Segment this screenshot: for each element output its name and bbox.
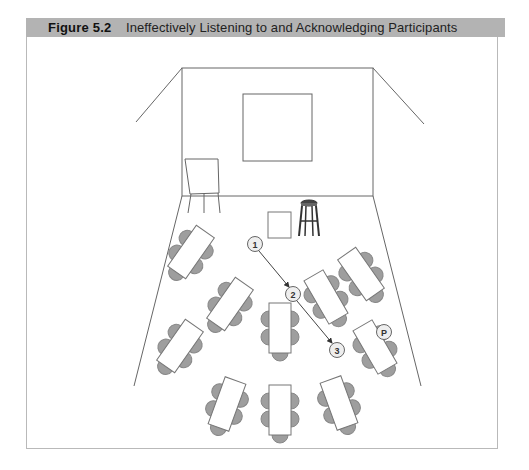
marker-3: 3 — [330, 343, 345, 358]
tables-group — [146, 221, 408, 443]
table-with-chairs — [198, 374, 254, 441]
table — [269, 303, 291, 353]
marker-2: 2 — [286, 287, 301, 302]
participant-marker-p: P — [377, 325, 392, 340]
svg-text:2: 2 — [290, 290, 295, 300]
table — [269, 385, 291, 435]
table-with-chairs — [261, 385, 299, 443]
table-with-chairs — [261, 303, 299, 361]
marker-1: 1 — [248, 237, 263, 252]
flipchart-easel-icon — [185, 159, 220, 213]
svg-text:3: 3 — [334, 346, 339, 356]
paper-sheet — [268, 212, 291, 238]
stool-icon — [299, 200, 319, 236]
left-wall-top-edge — [136, 68, 182, 122]
right-wall-top-edge — [373, 68, 424, 124]
table-with-chairs — [346, 316, 408, 385]
table-with-chairs — [146, 315, 210, 384]
classroom-diagram: 1 2 3 P — [0, 0, 529, 470]
table-with-chairs — [313, 373, 369, 440]
svg-text:1: 1 — [252, 240, 257, 250]
projection-screen — [243, 94, 312, 161]
svg-text:P: P — [381, 328, 387, 338]
table-with-chairs — [196, 273, 260, 342]
arrow-1-to-2 — [259, 251, 289, 287]
table-with-chairs — [157, 221, 221, 290]
